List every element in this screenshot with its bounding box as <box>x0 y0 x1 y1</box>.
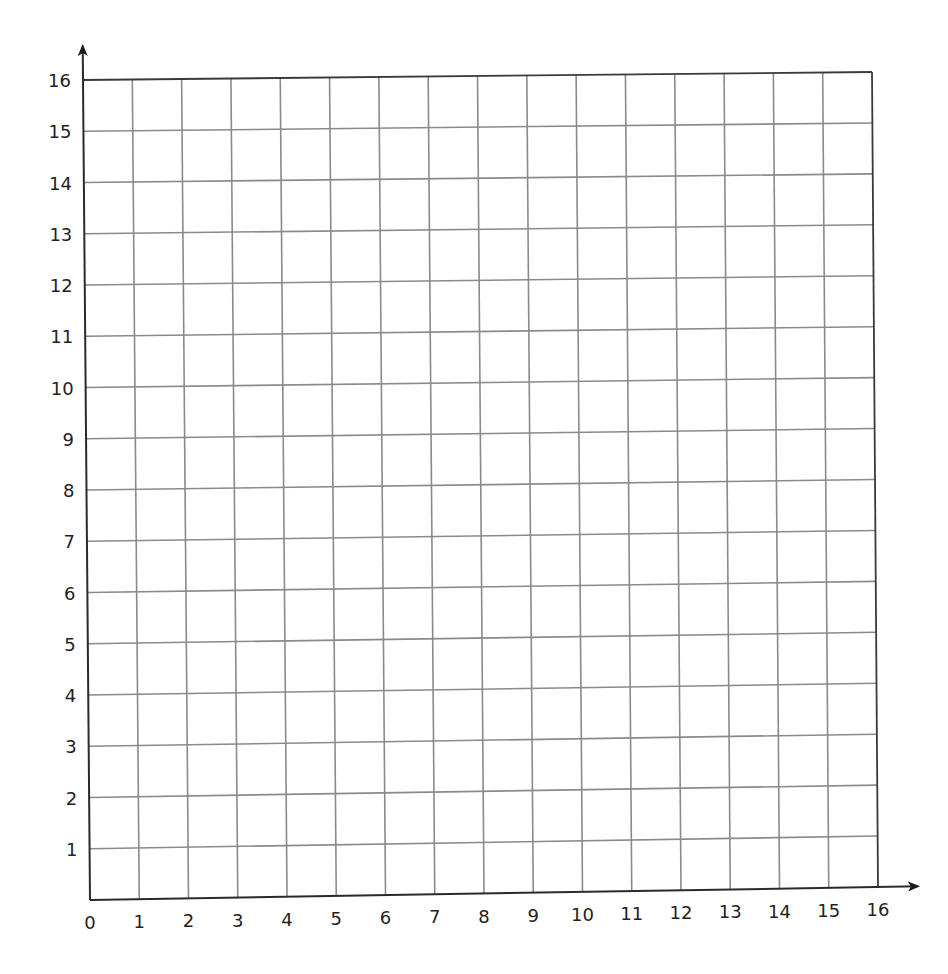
x-tick-label: 7 <box>429 906 440 927</box>
coordinate-grid-chart: 012345678910111213141516 123456789101112… <box>0 0 948 974</box>
x-tick-labels: 012345678910111213141516 <box>84 899 889 933</box>
x-tick-label: 8 <box>478 906 489 927</box>
y-tick-label: 11 <box>50 326 73 347</box>
y-tick-label: 15 <box>49 121 72 142</box>
y-tick-label: 1 <box>66 839 77 860</box>
x-tick-label: 11 <box>620 903 643 924</box>
x-tick-label: 12 <box>670 902 693 923</box>
x-tick-label: 15 <box>817 900 840 921</box>
x-tick-label: 13 <box>719 901 742 922</box>
y-tick-labels: 12345678910111213141516 <box>48 70 77 860</box>
x-tick-label: 4 <box>281 909 292 930</box>
y-tick-label: 5 <box>64 634 75 655</box>
y-tick-label: 6 <box>64 583 75 604</box>
x-tick-label: 16 <box>867 899 890 920</box>
y-tick-label: 2 <box>66 788 77 809</box>
y-tick-label: 13 <box>49 224 72 245</box>
x-tick-label: 2 <box>183 910 194 931</box>
x-tick-label: 0 <box>84 912 95 933</box>
x-tick-label: 1 <box>134 911 145 932</box>
y-tick-label: 8 <box>63 480 74 501</box>
y-tick-label: 16 <box>48 70 71 91</box>
x-tick-label: 10 <box>571 904 594 925</box>
x-tick-label: 3 <box>232 910 243 931</box>
y-tick-label: 4 <box>65 685 76 706</box>
grid-lines <box>83 73 877 900</box>
y-tick-label: 9 <box>63 429 74 450</box>
x-tick-label: 14 <box>768 901 791 922</box>
y-axis-arrow <box>83 46 90 900</box>
x-axis-arrow <box>90 886 918 900</box>
x-tick-label: 6 <box>380 907 391 928</box>
x-tick-label: 9 <box>528 905 539 926</box>
y-tick-label: 14 <box>49 173 72 194</box>
x-tick-label: 5 <box>331 908 342 929</box>
y-tick-label: 10 <box>51 378 74 399</box>
y-tick-label: 12 <box>50 275 73 296</box>
y-tick-label: 7 <box>63 531 74 552</box>
y-tick-label: 3 <box>65 736 76 757</box>
